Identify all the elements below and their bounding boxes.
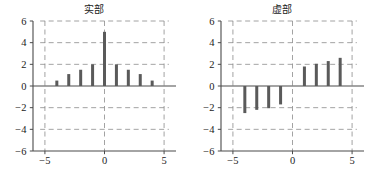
y-tick-label: −6	[203, 146, 214, 157]
bar	[315, 64, 318, 86]
y-tick-label: 4	[21, 37, 27, 48]
x-tick-label: 5	[161, 155, 166, 166]
bar	[79, 70, 82, 86]
bar	[67, 74, 70, 86]
y-tick-label: −2	[203, 102, 214, 113]
bar	[127, 70, 130, 86]
plot-imaginary-part: −6−4−20246−505	[188, 0, 376, 181]
x-tick-label: 0	[102, 155, 107, 166]
bar	[151, 81, 154, 86]
x-tick-label: −5	[227, 155, 238, 166]
bar	[103, 32, 106, 86]
bar	[55, 81, 58, 86]
plot-real-part: −6−4−20246−505	[0, 0, 188, 181]
figure-two-stem-plots: 实部 −6−4−20246−505 虚部 −6−4−20246−505	[0, 0, 377, 181]
bar	[255, 86, 258, 110]
bar	[339, 58, 342, 86]
y-tick-label: 4	[209, 37, 215, 48]
bar	[279, 86, 282, 104]
y-tick-label: −4	[15, 124, 27, 135]
bar	[139, 74, 142, 86]
x-tick-label: 0	[290, 155, 295, 166]
y-tick-label: −2	[15, 102, 26, 113]
y-tick-label: 0	[209, 81, 214, 92]
y-tick-label: 6	[21, 16, 26, 27]
y-tick-label: −4	[203, 124, 215, 135]
bar	[327, 61, 330, 86]
y-tick-label: 0	[21, 81, 26, 92]
bar	[267, 86, 270, 108]
x-tick-label: 5	[349, 155, 354, 166]
bar	[243, 86, 246, 113]
bar	[91, 64, 94, 86]
x-tick-label: −5	[39, 155, 50, 166]
panel-real-part: 实部 −6−4−20246−505	[0, 0, 188, 181]
y-tick-label: −6	[15, 146, 26, 157]
bar	[115, 64, 118, 86]
bar	[303, 67, 306, 87]
panel-imaginary-part: 虚部 −6−4−20246−505	[188, 0, 376, 181]
y-tick-label: 6	[209, 16, 214, 27]
y-tick-label: 2	[209, 59, 214, 70]
y-tick-label: 2	[21, 59, 26, 70]
